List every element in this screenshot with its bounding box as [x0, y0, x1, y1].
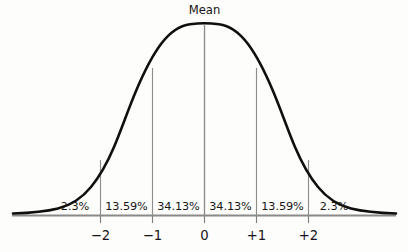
band-label-minus-1-to-zero: 34.13%: [157, 200, 200, 213]
tick-label-minus-2: −2: [91, 228, 110, 243]
tick-label-zero: 0: [200, 228, 208, 243]
normal-distribution-figure: Mean 2.3% 13.59% 34.13% 34.13% 13.59% 2.…: [0, 0, 408, 252]
tick-label-plus-2: +2: [299, 228, 318, 243]
band-label-minus-2-to-minus-1: 13.59%: [105, 200, 148, 213]
band-label-plus-2-to-plus-3: 2.3%: [320, 200, 349, 213]
band-label-minus-3-to-minus-2: 2.3%: [61, 200, 90, 213]
tick-label-plus-1: +1: [247, 228, 266, 243]
band-label-plus-1-to-plus-2: 13.59%: [261, 200, 304, 213]
tick-label-minus-1: −1: [143, 228, 162, 243]
band-label-zero-to-plus-1: 34.13%: [209, 200, 252, 213]
bell-curve-chart: Mean 2.3% 13.59% 34.13% 34.13% 13.59% 2.…: [0, 0, 408, 252]
mean-label: Mean: [189, 3, 221, 17]
